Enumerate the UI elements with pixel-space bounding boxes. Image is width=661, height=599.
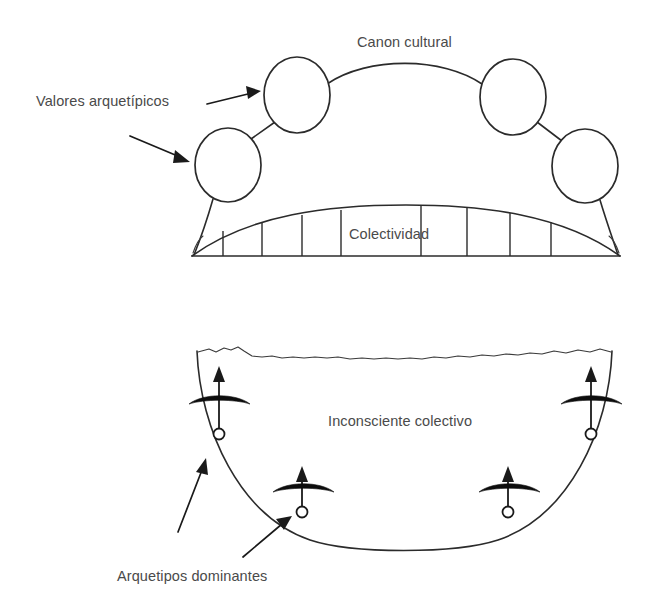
pointer-shaft xyxy=(130,136,180,157)
archetype-symbol-inner-left xyxy=(273,466,334,518)
pointer-shaft xyxy=(207,93,252,104)
arrowhead-icon xyxy=(246,86,261,99)
collective-unconscious-panel: Inconsciente colectivo Arquetipos domina… xyxy=(117,347,622,584)
label-colectividad: Colectividad xyxy=(349,226,429,242)
archetype-node-circle xyxy=(297,507,308,518)
label-arquetipos-dominantes: Arquetipos dominantes xyxy=(117,568,267,584)
archetype-symbol-outer-left xyxy=(189,366,250,440)
archetypal-value-node-left-high xyxy=(264,57,330,133)
archetype-crescent-icon xyxy=(273,484,334,492)
pointer-shaft xyxy=(178,470,202,532)
archetype-arrowhead-icon xyxy=(585,366,597,382)
canon-cultural-arc xyxy=(327,63,482,84)
archetypal-value-node-right-high xyxy=(480,59,546,135)
pointer-archetypal-values-lower xyxy=(130,136,190,163)
arrowhead-icon xyxy=(196,458,208,475)
pointer-dominant-archetypes-lower xyxy=(243,516,292,557)
archetype-symbol-outer-right xyxy=(561,366,622,440)
arrowhead-icon xyxy=(173,150,190,163)
diagram-canvas: Canon cultural Valores arquetípicos Cole… xyxy=(0,0,661,599)
archetypal-value-node-right-low xyxy=(552,129,618,203)
pointer-dominant-archetypes-upper xyxy=(178,458,208,532)
label-canon-cultural: Canon cultural xyxy=(357,34,452,50)
diagram-svg: Canon cultural Valores arquetípicos Cole… xyxy=(0,0,661,599)
archetype-crescent-icon xyxy=(479,484,540,492)
connector-left-link xyxy=(251,122,275,139)
archetype-arrowhead-icon xyxy=(213,366,225,382)
archetype-node-circle xyxy=(503,507,514,518)
stem-left-to-band xyxy=(194,199,213,255)
archetype-arrowhead-icon xyxy=(296,466,308,482)
cultural-canon-panel: Canon cultural Valores arquetípicos Cole… xyxy=(36,34,620,256)
stem-right-to-band xyxy=(600,200,618,255)
label-inconsciente-colectivo: Inconsciente colectivo xyxy=(328,413,472,429)
archetype-symbol-inner-right xyxy=(479,466,540,518)
archetypal-value-node-left-low xyxy=(195,128,261,202)
pointer-archetypal-values-upper xyxy=(207,86,261,104)
pointer-shaft xyxy=(243,524,282,557)
archetype-arrowhead-icon xyxy=(502,466,514,482)
connector-right-link xyxy=(537,122,562,141)
archetype-node-circle xyxy=(214,429,225,440)
unconscious-surface-wavy-line xyxy=(198,347,611,359)
archetype-node-circle xyxy=(586,429,597,440)
unconscious-bowl-outline xyxy=(197,351,612,551)
label-valores-arquetipicos: Valores arquetípicos xyxy=(36,93,169,109)
